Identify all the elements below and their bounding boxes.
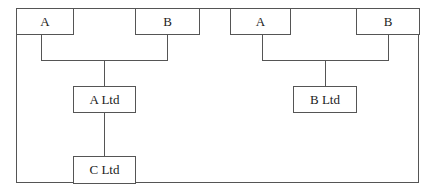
- connector-b-right-down: [388, 35, 389, 61]
- connector-to-a-ltd: [104, 60, 105, 86]
- connector-a-left-down: [41, 35, 42, 61]
- shareholder-a-right: A: [230, 8, 291, 35]
- connector-to-b-ltd: [325, 60, 326, 86]
- company-c-ltd: C Ltd: [73, 156, 136, 184]
- shareholder-b-left: B: [135, 8, 200, 35]
- company-a-ltd: A Ltd: [73, 86, 136, 113]
- shareholder-b-right: B: [356, 8, 420, 35]
- connector-a-ltd-to-c-ltd: [104, 113, 105, 157]
- connector-a-right-down: [262, 35, 263, 61]
- company-b-ltd: B Ltd: [293, 86, 357, 113]
- connector-b-left-down: [167, 35, 168, 61]
- shareholder-a-left: A: [16, 8, 74, 35]
